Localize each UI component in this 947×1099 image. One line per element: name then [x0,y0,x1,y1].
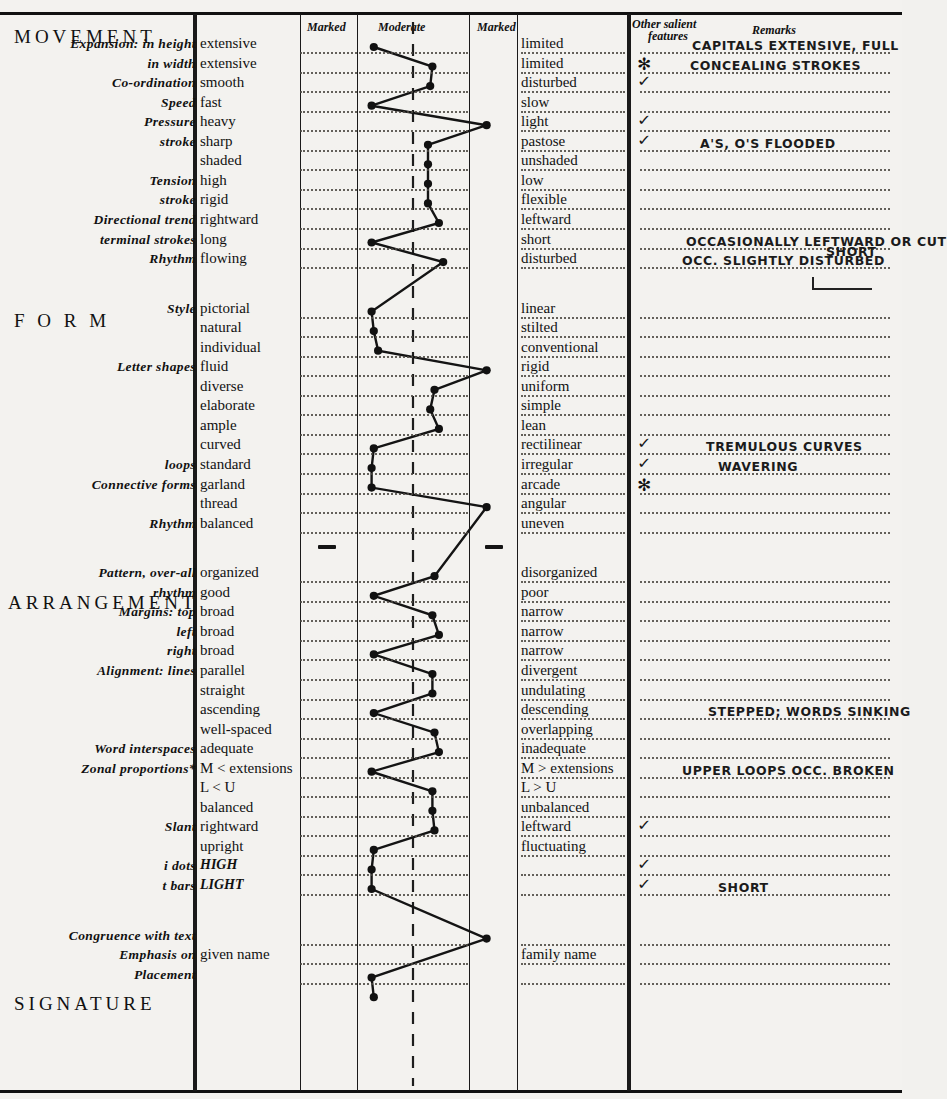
profile-point[interactable] [428,689,436,697]
profile-point[interactable] [483,366,491,374]
pole-right-label: poor [521,584,549,601]
pole-right-label: narrow [521,642,563,659]
profile-point[interactable] [430,386,438,394]
profile-point[interactable] [428,807,436,815]
row-leader-dots [300,679,468,681]
rule-col-4 [517,14,518,1091]
pole-right-label: simple [521,397,561,414]
profile-point[interactable] [430,826,438,834]
profile-point[interactable] [483,121,491,129]
row-leader-dots [640,757,890,759]
profile-point[interactable] [439,258,447,266]
check-mark: ✓ [637,454,651,472]
profile-point[interactable] [428,787,436,795]
profile-point[interactable] [370,327,378,335]
profile-point[interactable] [428,62,436,70]
column-header-marked-right: Marked [477,20,516,35]
pole-right-label: rigid [521,358,549,375]
profile-point[interactable] [370,650,378,658]
pole-right-label: lean [521,417,546,434]
profile-point[interactable] [370,592,378,600]
row-leader-dots [640,874,890,876]
row-leader-dots [300,963,468,965]
profile-point[interactable] [424,141,432,149]
profile-point[interactable] [368,464,376,472]
profile-point[interactable] [368,974,376,982]
check-mark: ✓ [637,434,651,452]
profile-point[interactable] [426,82,434,90]
profile-point[interactable] [368,238,376,246]
row-leader-dots [300,620,468,622]
trait-label: Alignment: lines [97,663,196,679]
profile-point[interactable] [368,308,376,316]
check-mark: ✓ [637,111,651,129]
pole-left-label: M < extensions [200,760,293,777]
row-leader-dots [640,414,890,416]
row-leader-dots [300,473,468,475]
rule-col-1 [300,14,301,1091]
row-leader-dots [640,835,890,837]
row-leader-dots [521,267,625,269]
profile-point[interactable] [426,405,434,413]
profile-point[interactable] [424,160,432,168]
profile-point[interactable] [368,484,376,492]
trait-label: Margins: top [119,604,196,620]
profile-point[interactable] [370,444,378,452]
profile-point[interactable] [368,102,376,110]
profile-point[interactable] [370,43,378,51]
pole-left-label: organized [200,564,259,581]
profile-point[interactable] [428,611,436,619]
pole-left-label: parallel [200,662,245,679]
row-leader-dots [300,395,468,397]
pole-right-label: pastose [521,133,565,150]
profile-point[interactable] [368,865,376,873]
profile-point[interactable] [435,425,443,433]
pole-left-label: long [200,231,227,248]
profile-point[interactable] [428,670,436,678]
profile-point[interactable] [435,631,443,639]
trait-label: Connective forms [92,477,196,493]
profile-point[interactable] [483,503,491,511]
pole-left-label: LIGHT [200,877,244,893]
trait-label: Word interspaces [94,741,196,757]
pole-right-label: undulating [521,682,585,699]
profile-point[interactable] [435,219,443,227]
trait-label: Zonal proportions* [81,761,196,777]
row-leader-dots [521,532,625,534]
row-leader-dots [300,150,468,152]
profile-point[interactable] [435,748,443,756]
row-leader-dots [300,983,468,985]
pole-left-label: fluid [200,358,228,375]
row-leader-dots [300,816,468,818]
profile-point[interactable] [374,347,382,355]
row-leader-dots [300,640,468,642]
trait-label: Placement [134,967,196,983]
asterisk-mark: ✻ [637,54,651,74]
row-leader-dots [640,855,890,857]
row-leader-dots [640,532,890,534]
pole-right-label: disturbed [521,250,577,267]
profile-point[interactable] [370,846,378,854]
pole-left-label: smooth [200,74,244,91]
pole-right-label: L > U [521,779,556,796]
remark-text: Occasionally leftward or cut [686,234,947,249]
profile-point[interactable] [430,572,438,580]
profile-point[interactable] [370,709,378,717]
pole-left-label: elaborate [200,397,255,414]
pole-left-label: broad [200,642,234,659]
profile-point[interactable] [368,768,376,776]
row-leader-dots [640,189,890,191]
row-leader-dots [640,601,890,603]
row-leader-dots [300,512,468,514]
pole-right-label: descending [521,701,588,718]
profile-point[interactable] [483,935,491,943]
check-mark: ✓ [637,816,651,834]
profile-point[interactable] [424,199,432,207]
trait-label: Rhythm [149,251,196,267]
profile-point[interactable] [430,729,438,737]
profile-point[interactable] [424,180,432,188]
profile-point[interactable] [368,885,376,893]
pole-right-label: low [521,172,544,189]
profile-point[interactable] [370,993,378,1001]
bottom-rule [0,1090,902,1093]
